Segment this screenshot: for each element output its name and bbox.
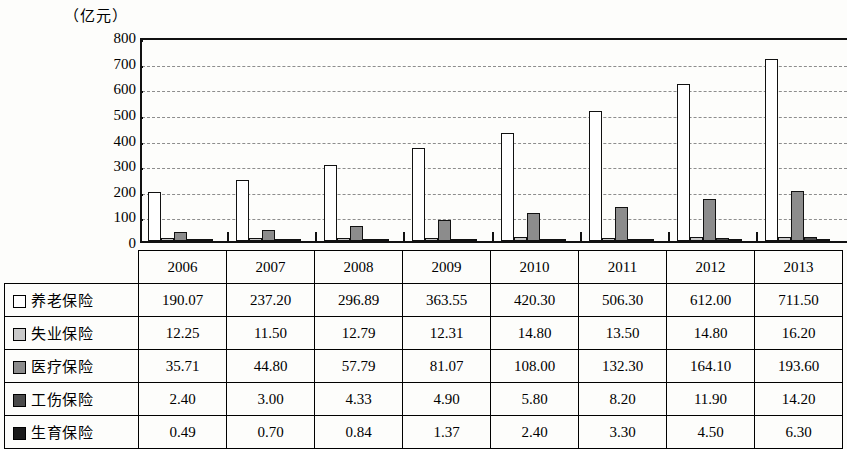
table-cell-医疗保险-2011: 132.30 bbox=[579, 350, 667, 383]
legend-label-text: 养老保险 bbox=[31, 293, 93, 309]
bar-生育保险-2006 bbox=[200, 239, 213, 242]
bar-医疗保险-2012 bbox=[703, 199, 716, 241]
table-col-header-2009: 2009 bbox=[403, 251, 491, 284]
table-row: 失业保险12.2511.5012.7912.3114.8013.5014.801… bbox=[5, 317, 843, 350]
bar-group-2013 bbox=[759, 40, 847, 241]
bar-医疗保险-2006 bbox=[174, 232, 187, 241]
bar-group-2009 bbox=[406, 40, 494, 241]
table-cell-医疗保险-2012: 164.10 bbox=[667, 350, 755, 383]
x-axis-separator-2012 bbox=[756, 232, 758, 241]
table-cell-医疗保险-2006: 35.71 bbox=[139, 350, 227, 383]
table-row-label-医疗保险: 医疗保险 bbox=[5, 350, 139, 383]
bar-chart: （亿元） 8007006005004003002001000 bbox=[0, 0, 847, 250]
bar-养老保险-2013 bbox=[765, 59, 778, 241]
x-axis-separator-2011 bbox=[668, 232, 670, 241]
bars-2013 bbox=[765, 59, 830, 241]
bar-生育保险-2013 bbox=[817, 239, 830, 242]
table-col-header-2012: 2012 bbox=[667, 251, 755, 284]
bar-养老保险-2009 bbox=[412, 148, 425, 241]
bar-生育保险-2011 bbox=[641, 239, 654, 242]
legend-label-text: 医疗保险 bbox=[31, 359, 93, 375]
table-cell-工伤保险-2012: 11.90 bbox=[667, 383, 755, 416]
bar-医疗保险-2008 bbox=[350, 226, 363, 241]
bar-工伤保险-2009 bbox=[451, 239, 464, 242]
bar-养老保险-2011 bbox=[589, 111, 602, 241]
bar-失业保险-2007 bbox=[249, 238, 262, 241]
bar-医疗保险-2011 bbox=[615, 207, 628, 241]
y-tick-400: 400 bbox=[80, 133, 136, 148]
bar-生育保险-2012 bbox=[729, 239, 742, 242]
data-table-region: 20062007200820092010201120122013 养老保险190… bbox=[4, 250, 843, 449]
y-tick-500: 500 bbox=[80, 107, 136, 122]
table-cell-工伤保险-2011: 8.20 bbox=[579, 383, 667, 416]
table-cell-生育保险-2008: 0.84 bbox=[315, 416, 403, 449]
table-row: 工伤保险2.403.004.334.905.808.2011.9014.20 bbox=[5, 383, 843, 416]
table-cell-生育保险-2007: 0.70 bbox=[227, 416, 315, 449]
table-cell-医疗保险-2009: 81.07 bbox=[403, 350, 491, 383]
table-row: 医疗保险35.7144.8057.7981.07108.00132.30164.… bbox=[5, 350, 843, 383]
table-cell-生育保险-2006: 0.49 bbox=[139, 416, 227, 449]
y-tick-800: 800 bbox=[80, 31, 136, 46]
bar-养老保险-2008 bbox=[324, 165, 337, 241]
bar-工伤保险-2013 bbox=[804, 237, 817, 241]
bars-2007 bbox=[236, 180, 301, 241]
legend-swatch-icon-工伤保险 bbox=[13, 394, 26, 407]
table-body: 养老保险190.07237.20296.89363.55420.30506.30… bbox=[5, 284, 843, 449]
table-cell-养老保险-2011: 506.30 bbox=[579, 284, 667, 317]
bar-失业保险-2011 bbox=[602, 238, 615, 241]
bar-生育保险-2008 bbox=[376, 239, 389, 242]
bar-医疗保险-2009 bbox=[438, 220, 451, 241]
table-col-header-2013: 2013 bbox=[755, 251, 843, 284]
table-cell-养老保险-2006: 190.07 bbox=[139, 284, 227, 317]
x-axis-separator-2009 bbox=[492, 232, 494, 241]
data-table: 20062007200820092010201120122013 养老保险190… bbox=[4, 250, 843, 449]
table-cell-养老保险-2008: 296.89 bbox=[315, 284, 403, 317]
table-cell-工伤保险-2013: 14.20 bbox=[755, 383, 843, 416]
legend-swatch-icon-生育保险 bbox=[13, 427, 26, 440]
table-cell-失业保险-2006: 12.25 bbox=[139, 317, 227, 350]
bar-工伤保险-2007 bbox=[275, 239, 288, 242]
bar-养老保险-2006 bbox=[148, 192, 161, 241]
table-cell-医疗保险-2007: 44.80 bbox=[227, 350, 315, 383]
bar-group-2008 bbox=[318, 40, 406, 241]
bar-group-2006 bbox=[142, 40, 230, 241]
bar-工伤保险-2011 bbox=[628, 239, 641, 242]
bar-工伤保险-2006 bbox=[187, 239, 200, 242]
bar-失业保险-2009 bbox=[425, 238, 438, 241]
y-tick-200: 200 bbox=[80, 184, 136, 199]
table-cell-养老保险-2013: 711.50 bbox=[755, 284, 843, 317]
table-cell-工伤保险-2006: 2.40 bbox=[139, 383, 227, 416]
table-cell-医疗保险-2010: 108.00 bbox=[491, 350, 579, 383]
bar-养老保险-2007 bbox=[236, 180, 249, 241]
x-axis-separator-2010 bbox=[580, 232, 582, 241]
table-header-row: 20062007200820092010201120122013 bbox=[5, 251, 843, 284]
y-tick-700: 700 bbox=[80, 56, 136, 71]
bar-group-2012 bbox=[671, 40, 759, 241]
bar-group-2011 bbox=[583, 40, 671, 241]
bars-2011 bbox=[589, 111, 654, 241]
y-axis-tick-labels: 8007006005004003002001000 bbox=[78, 30, 136, 252]
table-cell-工伤保险-2008: 4.33 bbox=[315, 383, 403, 416]
table-col-header-2006: 2006 bbox=[139, 251, 227, 284]
x-axis-separator-2006 bbox=[227, 232, 229, 241]
bar-工伤保险-2010 bbox=[540, 239, 553, 242]
bar-生育保险-2009 bbox=[464, 239, 477, 242]
table-cell-生育保险-2009: 1.37 bbox=[403, 416, 491, 449]
bar-医疗保险-2010 bbox=[527, 213, 540, 241]
bars-2010 bbox=[501, 133, 566, 241]
bar-group-2010 bbox=[495, 40, 583, 241]
x-axis-separator-2007 bbox=[315, 232, 317, 241]
table-cell-失业保险-2010: 14.80 bbox=[491, 317, 579, 350]
table-cell-生育保险-2013: 6.30 bbox=[755, 416, 843, 449]
table-cell-失业保险-2008: 12.79 bbox=[315, 317, 403, 350]
legend-label-text: 工伤保险 bbox=[31, 392, 93, 408]
table-cell-工伤保险-2010: 5.80 bbox=[491, 383, 579, 416]
y-tick-0: 0 bbox=[80, 236, 136, 251]
bars-2012 bbox=[677, 84, 742, 241]
y-tick-600: 600 bbox=[80, 82, 136, 97]
table-cell-工伤保险-2007: 3.00 bbox=[227, 383, 315, 416]
table-row-label-养老保险: 养老保险 bbox=[5, 284, 139, 317]
legend-swatch-icon-医疗保险 bbox=[13, 361, 26, 374]
table-row: 养老保险190.07237.20296.89363.55420.30506.30… bbox=[5, 284, 843, 317]
table-col-header-2007: 2007 bbox=[227, 251, 315, 284]
